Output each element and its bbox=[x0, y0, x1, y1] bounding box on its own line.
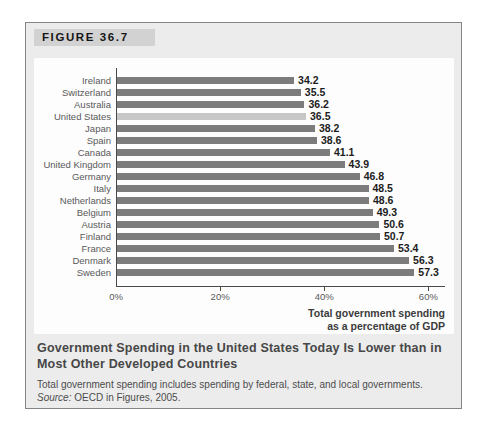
bar bbox=[116, 209, 373, 216]
category-label: Spain bbox=[34, 135, 116, 146]
chart-row: Austria50.6 bbox=[34, 218, 444, 230]
chart-row: Netherlands48.6 bbox=[34, 194, 444, 206]
bar-track: 50.6 bbox=[116, 218, 444, 230]
value-label: 49.3 bbox=[377, 206, 397, 218]
caption-source-label: Source: bbox=[37, 392, 71, 403]
bar bbox=[116, 173, 360, 180]
value-label: 38.6 bbox=[321, 134, 341, 146]
bar bbox=[116, 233, 380, 240]
bar-track: 35.5 bbox=[116, 86, 444, 98]
figure-box: FIGURE 36.7 Ireland34.2Switzerland35.5Au… bbox=[25, 22, 462, 409]
bar bbox=[116, 77, 294, 84]
chart-panel: Ireland34.2Switzerland35.5Australia36.2U… bbox=[34, 58, 454, 334]
figure-label-band: FIGURE 36.7 bbox=[34, 29, 155, 46]
chart-row: Switzerland35.5 bbox=[34, 86, 444, 98]
chart-row: United Kingdom43.9 bbox=[34, 158, 444, 170]
bar-track: 41.1 bbox=[116, 146, 444, 158]
category-label: Italy bbox=[34, 183, 116, 194]
bar-track: 49.3 bbox=[116, 206, 444, 218]
x-axis-title-line2: as a percentage of GDP bbox=[116, 320, 445, 333]
value-label: 36.5 bbox=[310, 110, 330, 122]
bar bbox=[116, 221, 379, 228]
value-label: 34.2 bbox=[298, 74, 318, 86]
category-label: Finland bbox=[34, 231, 116, 242]
category-label: Switzerland bbox=[34, 87, 116, 98]
bar-chart: Ireland34.2Switzerland35.5Australia36.2U… bbox=[34, 74, 444, 278]
page: { "figure": { "label": "FIGURE 36.7" }, … bbox=[0, 0, 490, 425]
caption-source-text: OECD in Figures, 2005. bbox=[71, 392, 180, 403]
category-label: United States bbox=[34, 111, 116, 122]
chart-row: Japan38.2 bbox=[34, 122, 444, 134]
chart-row: Spain38.6 bbox=[34, 134, 444, 146]
chart-row: Italy48.5 bbox=[34, 182, 444, 194]
bar-track: 46.8 bbox=[116, 170, 444, 182]
chart-row: Denmark56.3 bbox=[34, 254, 444, 266]
chart-row: Sweden57.3 bbox=[34, 266, 444, 278]
bar bbox=[116, 197, 369, 204]
chart-row: Australia36.2 bbox=[34, 98, 444, 110]
chart-row: Germany46.8 bbox=[34, 170, 444, 182]
value-label: 48.5 bbox=[373, 182, 393, 194]
bar bbox=[116, 137, 317, 144]
bar bbox=[116, 89, 301, 96]
category-label: Austria bbox=[34, 219, 116, 230]
chart-row: Canada41.1 bbox=[34, 146, 444, 158]
category-label: Canada bbox=[34, 147, 116, 158]
bar-track: 36.2 bbox=[116, 98, 444, 110]
value-label: 43.9 bbox=[349, 158, 369, 170]
bar-track: 38.6 bbox=[116, 134, 444, 146]
x-tick-label: 40% bbox=[315, 291, 334, 302]
x-axis-title: Total government spending as a percentag… bbox=[116, 307, 445, 333]
bar-track: 48.5 bbox=[116, 182, 444, 194]
chart-row: France53.4 bbox=[34, 242, 444, 254]
bar-track: 36.5 bbox=[116, 110, 444, 122]
category-label: Netherlands bbox=[34, 195, 116, 206]
category-label: Germany bbox=[34, 171, 116, 182]
value-label: 38.2 bbox=[319, 122, 339, 134]
category-label: Denmark bbox=[34, 255, 116, 266]
value-label: 36.2 bbox=[308, 98, 328, 110]
category-label: United Kingdom bbox=[34, 159, 116, 170]
chart-row: Ireland34.2 bbox=[34, 74, 444, 86]
y-axis-line bbox=[116, 68, 117, 286]
chart-row: Finland50.7 bbox=[34, 230, 444, 242]
x-tick-label: 20% bbox=[211, 291, 230, 302]
bar-track: 48.6 bbox=[116, 194, 444, 206]
figure-label: FIGURE 36.7 bbox=[42, 31, 129, 43]
x-tick-label: 0% bbox=[109, 291, 123, 302]
chart-row: United States36.5 bbox=[34, 110, 444, 122]
bar-track: 57.3 bbox=[116, 266, 444, 278]
value-label: 46.8 bbox=[364, 170, 384, 182]
caption-title: Government Spending in the United States… bbox=[37, 341, 453, 372]
bar-track: 50.7 bbox=[116, 230, 444, 242]
category-label: Belgium bbox=[34, 207, 116, 218]
bar bbox=[116, 269, 414, 276]
bar-highlighted bbox=[116, 113, 306, 120]
bar-track: 53.4 bbox=[116, 242, 444, 254]
bar bbox=[116, 185, 369, 192]
value-label: 48.6 bbox=[373, 194, 393, 206]
x-tick-label: 60% bbox=[419, 291, 438, 302]
caption-note-text: Total government spending includes spend… bbox=[37, 379, 423, 390]
value-label: 56.3 bbox=[413, 254, 433, 266]
category-label: Sweden bbox=[34, 267, 116, 278]
value-label: 57.3 bbox=[418, 266, 438, 278]
bar-track: 38.2 bbox=[116, 122, 444, 134]
value-label: 53.4 bbox=[398, 242, 418, 254]
bar bbox=[116, 149, 330, 156]
bar bbox=[116, 101, 304, 108]
category-label: Ireland bbox=[34, 75, 116, 86]
bar bbox=[116, 245, 394, 252]
bar-track: 34.2 bbox=[116, 74, 444, 86]
value-label: 50.7 bbox=[384, 230, 404, 242]
category-label: Australia bbox=[34, 99, 116, 110]
bar bbox=[116, 161, 345, 168]
category-label: France bbox=[34, 243, 116, 254]
bar bbox=[116, 257, 409, 264]
caption-note: Total government spending includes spend… bbox=[37, 378, 453, 404]
value-label: 35.5 bbox=[305, 86, 325, 98]
value-label: 50.6 bbox=[383, 218, 403, 230]
value-label: 41.1 bbox=[334, 146, 354, 158]
bar-track: 43.9 bbox=[116, 158, 444, 170]
chart-row: Belgium49.3 bbox=[34, 206, 444, 218]
